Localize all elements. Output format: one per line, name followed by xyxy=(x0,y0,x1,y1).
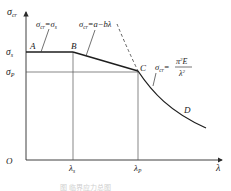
point-a-label: A xyxy=(29,41,36,51)
formula-linear: σcr=a−bλ xyxy=(79,19,112,30)
formula-euler-numerator: π2E xyxy=(176,57,188,66)
sigma-p-label: σP xyxy=(6,67,15,78)
lambda-p-label: λP xyxy=(133,163,142,174)
y-axis-label: σcr xyxy=(7,6,18,18)
euler-curve-cd xyxy=(138,71,206,128)
sigma-s-label: σs xyxy=(6,47,14,58)
origin-label: O xyxy=(6,156,13,166)
leader-yield xyxy=(41,29,49,52)
x-axis-label: λ xyxy=(215,162,221,173)
critical-stress-diagram: σcr λ O σs σP λs λP A B C D σcr=σs σcr=a… xyxy=(0,0,231,191)
leader-linear xyxy=(86,30,95,56)
point-b-label: B xyxy=(71,41,77,51)
figure-caption: 图 临界应力总图 xyxy=(60,183,111,191)
point-d-label: D xyxy=(183,105,191,115)
formula-yield: σcr=σs xyxy=(36,19,57,30)
leader-euler xyxy=(153,73,156,86)
formula-euler: σcr= xyxy=(155,62,170,73)
euler-dashed-extension xyxy=(117,24,138,71)
formula-euler-denominator: λ2 xyxy=(178,69,185,78)
point-c-label: C xyxy=(140,63,147,73)
segment-bc xyxy=(73,52,138,71)
lambda-s-label: λs xyxy=(68,163,75,174)
